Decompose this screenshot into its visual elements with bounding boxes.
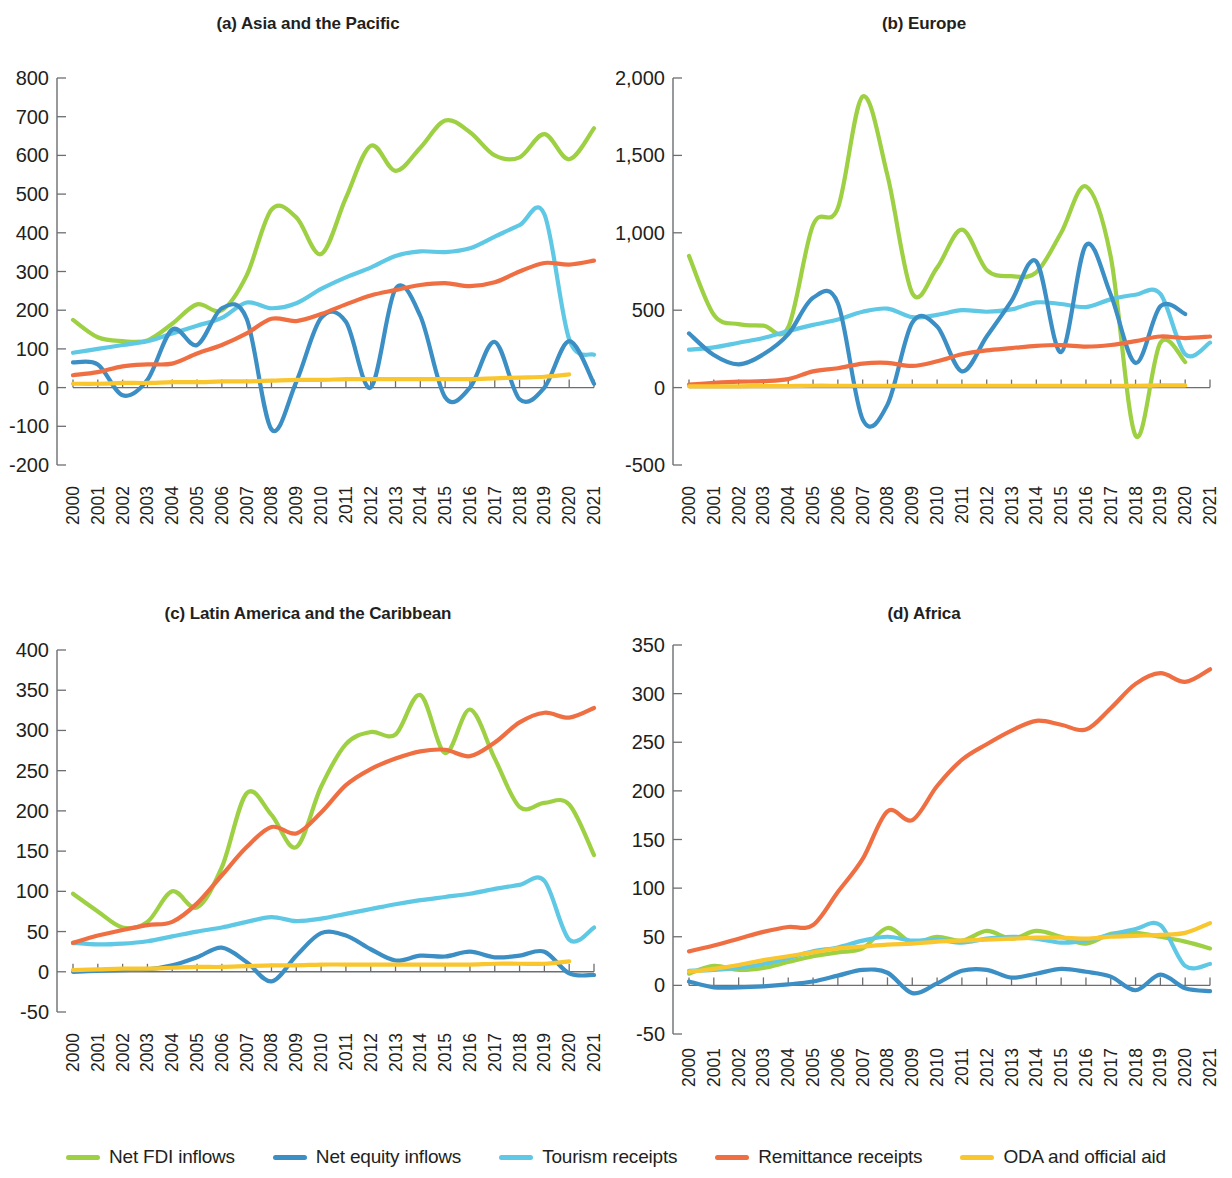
x-tick-label: 2013 [386, 486, 406, 525]
legend-item-oda_and_official_aid[interactable]: ODA and official aid [960, 1146, 1166, 1168]
x-tick-label: 2011 [336, 1033, 356, 1071]
x-tick-label: 2021 [1200, 1048, 1220, 1087]
x-tick-label: 2002 [729, 486, 749, 525]
y-tick-label: 150 [16, 840, 49, 862]
y-tick-label: -100 [9, 415, 49, 437]
x-tick-label: 2017 [1101, 486, 1121, 525]
legend-label-remittance_receipts: Remittance receipts [758, 1146, 922, 1168]
x-tick-label: 2006 [212, 486, 232, 525]
legend-item-remittance_receipts[interactable]: Remittance receipts [715, 1146, 922, 1168]
x-tick-label: 2018 [510, 1033, 530, 1072]
panel-c-plot: 400350300250200150100500-502000200120022… [0, 590, 616, 1178]
y-tick-label: 0 [38, 377, 49, 399]
legend-item-net_equity_inflows[interactable]: Net equity inflows [273, 1146, 461, 1168]
panel-b-plot: 2,0001,5001,0005000-50020002001200220032… [616, 0, 1232, 590]
x-tick-label: 2012 [977, 486, 997, 525]
x-tick-label: 2017 [485, 486, 505, 525]
y-tick-label: 400 [16, 639, 49, 661]
y-tick-label: -50 [20, 1001, 49, 1023]
x-tick-label: 2007 [853, 486, 873, 525]
panel-africa: (d) Africa 350300250200150100500-5020002… [616, 590, 1232, 1178]
chart-legend: Net FDI inflowsNet equity inflowsTourism… [0, 1136, 1232, 1178]
legend-label-net_fdi_inflows: Net FDI inflows [109, 1146, 235, 1168]
x-tick-label: 2019 [1150, 486, 1170, 525]
x-tick-label: 2003 [753, 1048, 773, 1087]
y-tick-label: 1,000 [616, 222, 665, 244]
x-tick-label: 2021 [584, 486, 604, 525]
panel-latin-america-and-the-caribbean: (c) Latin America and the Caribbean 4003… [0, 590, 616, 1178]
y-tick-label: 100 [632, 877, 665, 899]
x-tick-label: 2018 [1126, 486, 1146, 525]
y-tick-label: 50 [643, 926, 665, 948]
y-tick-label: 2,000 [616, 67, 665, 89]
y-tick-label: 300 [16, 261, 49, 283]
y-tick-label: 50 [27, 921, 49, 943]
x-tick-label: 2017 [1101, 1048, 1121, 1087]
x-tick-label: 2013 [1002, 486, 1022, 525]
x-tick-label: 2009 [902, 1048, 922, 1087]
x-tick-label: 2013 [386, 1033, 406, 1072]
x-tick-label: 2012 [977, 1048, 997, 1087]
series-line-remittance-receipts [73, 261, 594, 376]
series-line-tourism-receipts [73, 877, 594, 944]
x-tick-label: 2014 [1026, 1048, 1046, 1087]
x-tick-label: 2001 [88, 1033, 108, 1072]
y-tick-label: 150 [632, 829, 665, 851]
x-tick-label: 2012 [361, 486, 381, 525]
x-tick-label: 2018 [510, 486, 530, 525]
x-tick-label: 2010 [311, 1033, 331, 1072]
x-tick-label: 2003 [753, 486, 773, 525]
x-tick-label: 2004 [162, 1033, 182, 1072]
x-tick-label: 2000 [63, 1033, 83, 1072]
x-tick-label: 2016 [460, 486, 480, 525]
x-tick-label: 2014 [1026, 486, 1046, 525]
x-tick-label: 2015 [435, 486, 455, 525]
x-tick-label: 2010 [927, 1048, 947, 1087]
x-tick-label: 2005 [803, 486, 823, 525]
x-tick-label: 2010 [927, 486, 947, 525]
x-tick-label: 2009 [902, 486, 922, 525]
x-tick-label: 2003 [137, 486, 157, 525]
y-tick-label: 1,500 [616, 144, 665, 166]
x-tick-label: 2002 [729, 1048, 749, 1087]
legend-item-net_fdi_inflows[interactable]: Net FDI inflows [66, 1146, 235, 1168]
legend-label-oda_and_official_aid: ODA and official aid [1003, 1146, 1166, 1168]
x-tick-label: 2014 [410, 486, 430, 525]
legend-swatch-oda_and_official_aid [960, 1155, 994, 1160]
x-tick-label: 2000 [679, 486, 699, 525]
panel-europe: (b) Europe 2,0001,5001,0005000-500200020… [616, 0, 1232, 590]
panel-a-plot: 8007006005004003002001000-100-2002000200… [0, 0, 616, 590]
x-tick-label: 2019 [534, 486, 554, 525]
x-tick-label: 2020 [559, 486, 579, 525]
x-tick-label: 2006 [828, 486, 848, 525]
panel-asia-and-the-pacific: (a) Asia and the Pacific 800700600500400… [0, 0, 616, 590]
x-tick-label: 2000 [63, 486, 83, 525]
legend-swatch-net_equity_inflows [273, 1155, 307, 1160]
y-tick-label: 100 [16, 338, 49, 360]
panel-d-plot: 350300250200150100500-502000200120022003… [616, 590, 1232, 1178]
x-tick-label: 2021 [1200, 486, 1220, 525]
x-tick-label: 2008 [877, 1048, 897, 1087]
x-tick-label: 2001 [704, 1048, 724, 1087]
y-tick-label: 200 [16, 800, 49, 822]
legend-item-tourism_receipts[interactable]: Tourism receipts [499, 1146, 677, 1168]
x-tick-label: 2015 [435, 1033, 455, 1072]
x-tick-label: 2004 [162, 486, 182, 525]
x-tick-label: 2007 [237, 486, 257, 525]
x-tick-label: 2001 [704, 486, 724, 525]
y-tick-label: 200 [632, 780, 665, 802]
x-tick-label: 2001 [88, 486, 108, 525]
x-tick-label: 2016 [1076, 486, 1096, 525]
y-tick-label: -200 [9, 454, 49, 476]
x-tick-label: 2020 [1175, 486, 1195, 525]
x-tick-label: 2020 [1175, 1048, 1195, 1087]
y-tick-label: 0 [38, 961, 49, 983]
y-tick-label: 250 [16, 760, 49, 782]
x-tick-label: 2005 [187, 1033, 207, 1072]
x-tick-label: 2004 [778, 486, 798, 525]
y-tick-label: 600 [16, 144, 49, 166]
x-tick-label: 2007 [237, 1033, 257, 1072]
y-tick-label: 400 [16, 222, 49, 244]
y-tick-label: 250 [632, 731, 665, 753]
x-tick-label: 2008 [261, 486, 281, 525]
